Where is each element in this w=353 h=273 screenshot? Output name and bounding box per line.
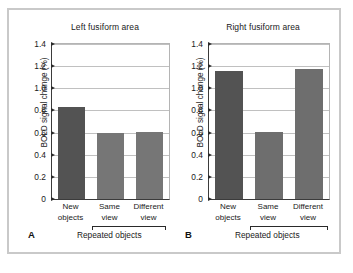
y-axis-tick-mark xyxy=(208,108,212,112)
x-axis-tick-label: Differentview xyxy=(282,202,334,223)
y-axis-tick-mark xyxy=(208,64,212,68)
y-axis-tick-mark xyxy=(208,175,212,179)
x-axis-tick-label-line: Different xyxy=(282,202,334,213)
panel-b-x-axis-label: Repeated objects xyxy=(235,230,300,240)
y-axis-tick-mark xyxy=(51,108,55,112)
y-axis-tick-mark xyxy=(51,153,55,157)
chart-panel-b: Right fusiform area BOLD signal change (… xyxy=(175,10,337,256)
y-axis-tick-label: 1.0 xyxy=(34,83,52,93)
panel-b-bars xyxy=(209,44,329,199)
y-axis-tick-label: 0.6 xyxy=(34,128,52,138)
figure-frame: Left fusiform area BOLD signal change (%… xyxy=(7,8,341,254)
y-axis-tick-label: 0.8 xyxy=(191,105,209,115)
panel-b-plot-area: 00.20.40.60.81.01.21.4 xyxy=(208,43,330,200)
y-axis-tick-mark xyxy=(51,64,55,68)
y-axis-tick-mark xyxy=(208,131,212,135)
y-axis-tick-label: 0.4 xyxy=(34,150,52,160)
panel-a-title: Left fusiform area xyxy=(15,22,177,32)
x-axis-tick-label-line: Different xyxy=(123,202,174,213)
y-axis-tick-mark xyxy=(51,131,55,135)
y-axis-tick-label: 0.6 xyxy=(191,128,209,138)
panel-a-x-labels: NewobjectsSameviewDifferentview xyxy=(51,202,170,228)
y-axis-tick-label: 1.4 xyxy=(34,39,52,49)
y-axis-tick-label: 1.2 xyxy=(191,61,209,71)
panel-a-plot-area: 00.20.40.60.81.01.21.4 xyxy=(51,43,170,200)
y-axis-tick-mark xyxy=(51,42,55,46)
y-axis-tick-mark xyxy=(208,42,212,46)
panel-b-title: Right fusiform area xyxy=(175,22,337,32)
bar xyxy=(215,71,243,199)
y-axis-tick-mark xyxy=(51,197,55,201)
y-axis-tick-mark xyxy=(208,86,212,90)
x-axis-tick-label-line: view xyxy=(282,213,334,224)
bar xyxy=(136,132,163,199)
panel-b-x-labels: NewobjectsSameviewDifferentview xyxy=(208,202,330,228)
y-axis-tick-label: 1.4 xyxy=(191,39,209,49)
y-axis-tick-label: 0.8 xyxy=(34,105,52,115)
y-axis-tick-label: 0.2 xyxy=(191,172,209,182)
x-axis-tick-label-line: view xyxy=(123,213,174,224)
y-axis-tick-mark xyxy=(208,197,212,201)
panel-b-letter: B xyxy=(185,229,192,240)
y-axis-tick-label: 1.0 xyxy=(191,83,209,93)
panel-a-bars xyxy=(52,44,169,199)
y-axis-tick-label: 0.4 xyxy=(191,150,209,160)
figure-root: Left fusiform area BOLD signal change (%… xyxy=(0,0,353,273)
x-axis-tick-label: Differentview xyxy=(123,202,174,223)
panel-a-letter: A xyxy=(28,229,35,240)
bar xyxy=(255,132,283,199)
y-axis-tick-mark xyxy=(51,175,55,179)
panel-a-x-axis-label: Repeated objects xyxy=(77,230,142,240)
bar xyxy=(295,69,323,199)
y-axis-tick-label: 1.2 xyxy=(34,61,52,71)
chart-panel-a: Left fusiform area BOLD signal change (%… xyxy=(15,10,177,256)
bar xyxy=(97,133,124,199)
y-axis-tick-mark xyxy=(208,153,212,157)
bar xyxy=(58,107,85,199)
y-axis-tick-label: 0.2 xyxy=(34,172,52,182)
y-axis-tick-mark xyxy=(51,86,55,90)
